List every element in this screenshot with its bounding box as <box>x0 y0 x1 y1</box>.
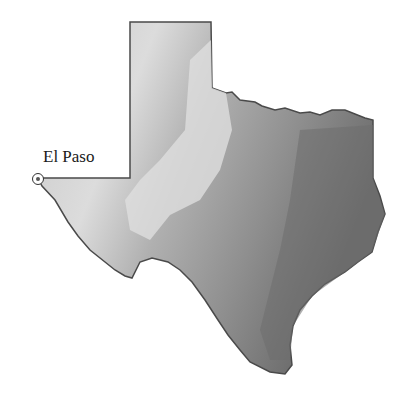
city-marker-icon[interactable] <box>32 173 44 185</box>
texas-relief-map <box>0 0 416 402</box>
city-label-el-paso: El Paso <box>43 147 94 167</box>
